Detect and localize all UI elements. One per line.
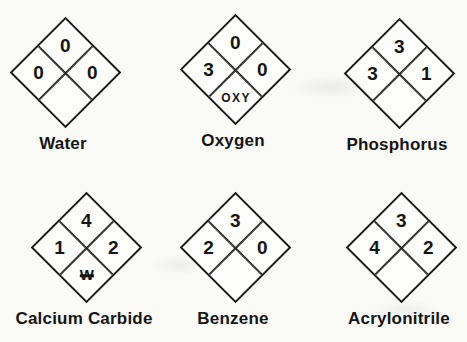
chemical-label: Oxygen xyxy=(153,131,313,151)
hazard-figure-phosphorus: 3 1 3 Phosphorus xyxy=(317,18,467,155)
hazard-figure-calcium-carbide: 4 2 1 W Calcium Carbide xyxy=(4,192,164,329)
right-rating: 0 xyxy=(257,59,268,78)
chemical-label: Calcium Carbide xyxy=(4,309,164,329)
chemical-label: Benzene xyxy=(153,309,313,329)
diamond-box: 0 0 3 OXY xyxy=(180,14,286,120)
left-rating: 4 xyxy=(368,237,379,256)
right-rating: 0 xyxy=(257,237,268,256)
nfpa-diamond: 0 0 3 OXY xyxy=(179,13,291,125)
nfpa-diamond: 3 1 3 xyxy=(343,17,455,129)
diamond-box: 4 2 1 W xyxy=(31,192,137,298)
special-symbol-oxy: OXY xyxy=(221,91,251,103)
nfpa-diamond: 4 2 1 W xyxy=(30,191,142,303)
hazard-figure-benzene: 3 0 2 Benzene xyxy=(153,192,313,329)
left-rating: 3 xyxy=(366,63,377,82)
right-rating: 2 xyxy=(423,237,434,256)
scanned-figure-page: { "page": { "background": "#f9f9f6", "in… xyxy=(0,0,467,342)
top-rating: 0 xyxy=(230,32,241,51)
chemical-label: Acrylonitrile xyxy=(319,309,467,329)
special-symbol-no-water: W xyxy=(79,267,93,282)
top-rating: 3 xyxy=(394,36,405,55)
right-rating: 1 xyxy=(421,63,432,82)
right-rating: 0 xyxy=(87,62,98,81)
nfpa-diamond: 0 0 0 xyxy=(9,16,121,128)
hazard-figure-water: 0 0 0 Water xyxy=(0,17,143,154)
nfpa-diamond: 3 0 2 xyxy=(179,191,291,303)
left-rating: 0 xyxy=(32,62,43,81)
diamond-box: 3 0 2 xyxy=(180,192,286,298)
left-rating: 3 xyxy=(202,59,213,78)
right-rating: 2 xyxy=(108,237,119,256)
top-rating: 3 xyxy=(230,210,241,229)
diamond-box: 0 0 0 xyxy=(10,17,116,123)
diamond-box: 3 1 3 xyxy=(344,18,450,124)
hazard-figure-acrylonitrile: 3 2 4 Acrylonitrile xyxy=(319,192,467,329)
chemical-label: Phosphorus xyxy=(317,135,467,155)
left-rating: 2 xyxy=(202,237,213,256)
hazard-figure-oxygen: 0 0 3 OXY Oxygen xyxy=(153,14,313,151)
top-rating: 0 xyxy=(60,35,71,54)
top-rating: 3 xyxy=(396,210,407,229)
nfpa-diamond: 3 2 4 xyxy=(345,191,457,303)
left-rating: 1 xyxy=(53,237,64,256)
chemical-label: Water xyxy=(0,134,143,154)
diamond-box: 3 2 4 xyxy=(346,192,452,298)
top-rating: 4 xyxy=(81,210,92,229)
